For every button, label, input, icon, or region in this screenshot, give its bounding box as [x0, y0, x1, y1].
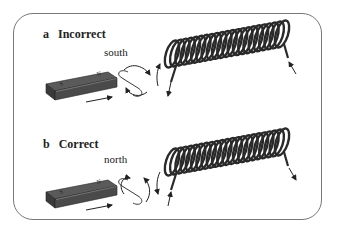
coil-lead-left	[171, 174, 176, 190]
diagram-canvas: SN SN	[0, 0, 348, 233]
field-arrow-top	[124, 66, 150, 75]
current-arrow-left	[168, 82, 171, 96]
coil-lead-left	[171, 66, 176, 82]
magnet-motion-arrow	[86, 97, 112, 102]
panel-a: SN	[46, 19, 296, 102]
current-arrow-right	[289, 168, 296, 180]
coil-flux-arrow	[157, 64, 160, 86]
magnet-motion-arrow	[86, 205, 112, 210]
pole-symbol	[119, 71, 142, 97]
panel-b: SN	[46, 127, 296, 210]
field-arrow-bottom	[126, 88, 147, 95]
coil-flux-arrow	[157, 172, 160, 194]
field-arrow-right	[144, 178, 150, 202]
coil-lead-right	[284, 152, 288, 166]
current-arrow-left	[168, 192, 171, 206]
current-arrow-right	[289, 62, 296, 74]
coil-lead-right	[284, 44, 288, 58]
